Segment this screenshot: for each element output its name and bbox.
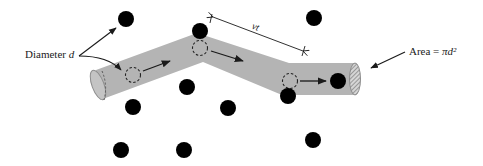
molecule-dot-icon xyxy=(176,142,192,158)
molecule-dot-icon xyxy=(330,73,346,89)
diameter-label: Diameter d xyxy=(25,49,74,60)
molecule-dot-icon xyxy=(125,99,141,115)
molecule-dot-icon xyxy=(280,88,296,104)
molecule-dot-icon xyxy=(192,23,208,39)
collision-cylinder-diagram: Diameter d vt Area = πd² xyxy=(0,0,483,166)
area-label-text: Area = xyxy=(409,45,439,57)
diameter-label-text: Diameter xyxy=(25,48,66,60)
molecule-dot-icon xyxy=(113,142,129,158)
cylinder-end-cap-area xyxy=(350,63,361,95)
diagram-canvas xyxy=(0,0,483,166)
diameter-variable: d xyxy=(69,48,75,60)
area-label: Area = πd² xyxy=(409,46,456,57)
molecule-dot-icon xyxy=(305,132,321,148)
area-formula: πd² xyxy=(442,45,456,57)
cylinder-tube xyxy=(96,33,355,100)
area-pointer-arrow-icon xyxy=(371,52,405,68)
molecule-dot-icon xyxy=(118,11,134,27)
molecule-dot-icon xyxy=(179,79,195,95)
pointer-arrow-icon xyxy=(79,28,116,56)
molecule-dot-icon xyxy=(306,10,322,26)
molecule-dot-icon xyxy=(220,100,236,116)
